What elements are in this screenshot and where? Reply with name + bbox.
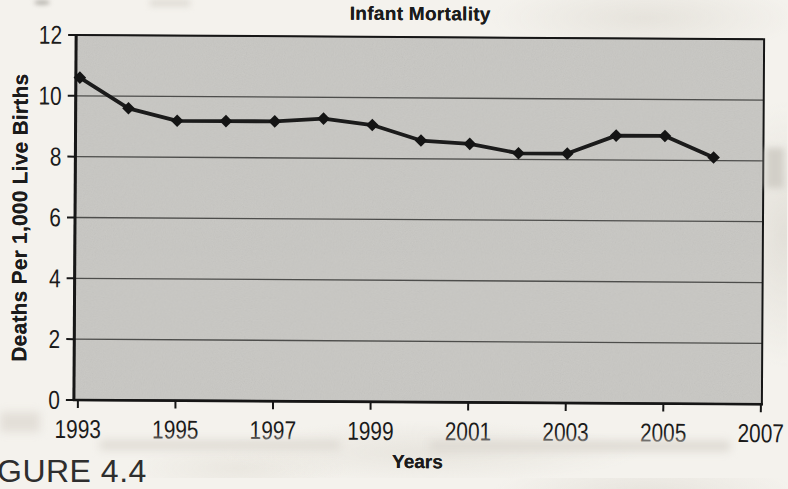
- chart-title: Infant Mortality: [76, 1, 764, 27]
- x-tick-label: 1995: [152, 414, 199, 444]
- figure-caption: GURE 4.4: [0, 455, 147, 487]
- y-axis-title: Deaths Per 1,000 Live Births: [7, 74, 33, 362]
- scanned-figure: Infant Mortality Deaths Per 1,000 Live B…: [0, 0, 788, 482]
- y-tick-label: 8: [50, 142, 62, 172]
- y-tick-label: 4: [49, 263, 61, 293]
- x-tick-label: 2001: [445, 416, 492, 446]
- infant-mortality-line-chart: 0246810121993199519971999200120032005200…: [0, 0, 788, 482]
- y-tick-label: 10: [38, 81, 61, 111]
- x-tick-label: 2007: [737, 418, 784, 448]
- x-tick-label: 1999: [347, 416, 394, 446]
- x-tick-label: 1993: [54, 414, 101, 444]
- x-tick-label: 2005: [640, 417, 687, 447]
- y-tick-label: 12: [39, 20, 62, 50]
- x-axis-title: Years: [73, 449, 761, 475]
- y-tick-label: 6: [49, 202, 61, 232]
- y-tick-label: 2: [49, 324, 61, 354]
- x-tick-label: 1997: [250, 415, 297, 445]
- y-tick-label: 0: [48, 385, 60, 415]
- x-tick-label: 2003: [542, 417, 589, 447]
